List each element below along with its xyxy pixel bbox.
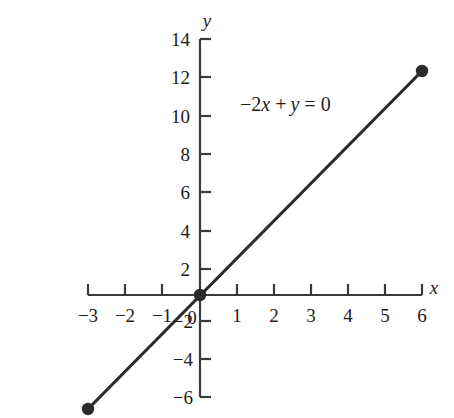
x-axis-label: x xyxy=(429,277,439,298)
y-tick-label-8: 8 xyxy=(181,144,191,165)
equation-var-y: y xyxy=(288,93,299,116)
x-tick-label--1: −1 xyxy=(152,305,172,326)
y-tick-label--2: −2 xyxy=(173,311,193,332)
equation-lead: −2 xyxy=(240,93,261,115)
equation-annotation: −2x+y=0 xyxy=(240,93,331,116)
data-line-series-0 xyxy=(88,71,422,409)
x-tick-label-2: 2 xyxy=(269,305,279,326)
x-axis-ticks xyxy=(88,284,422,295)
endpoint-marker-left xyxy=(82,403,94,415)
y-tick-label--6: −6 xyxy=(173,387,193,408)
line-plot-canvas: −3 −2 −1 0 1 2 3 4 5 6 14 12 10 8 6 4 2 … xyxy=(0,0,454,418)
x-tick-label-1: 1 xyxy=(232,305,242,326)
equation-var-x: x xyxy=(260,93,270,115)
x-tick-label-5: 5 xyxy=(380,305,390,326)
origin-marker xyxy=(194,289,206,301)
y-tick-label-12: 12 xyxy=(171,67,190,88)
endpoint-marker-right xyxy=(416,65,428,77)
y-tick-label-10: 10 xyxy=(171,106,190,127)
equation-rhs: 0 xyxy=(321,93,331,115)
y-tick-label-4: 4 xyxy=(181,221,191,242)
y-axis-ticks xyxy=(200,39,211,397)
x-tick-label-6: 6 xyxy=(417,305,427,326)
svg-text:−2x+y=0: −2x+y=0 xyxy=(240,93,331,116)
y-tick-label-6: 6 xyxy=(181,182,191,203)
x-tick-label--2: −2 xyxy=(115,305,135,326)
x-tick-label-4: 4 xyxy=(343,305,353,326)
equation-equals: = xyxy=(304,93,315,115)
y-tick-label-2: 2 xyxy=(181,259,191,280)
x-tick-label--3: −3 xyxy=(78,305,98,326)
x-tick-label-3: 3 xyxy=(306,305,316,326)
y-axis-label: y xyxy=(201,10,212,31)
chart-figure: −3 −2 −1 0 1 2 3 4 5 6 14 12 10 8 6 4 2 … xyxy=(0,0,454,418)
y-tick-label--4: −4 xyxy=(173,349,194,370)
y-tick-label-14: 14 xyxy=(171,29,191,50)
equation-plus: + xyxy=(275,93,286,115)
